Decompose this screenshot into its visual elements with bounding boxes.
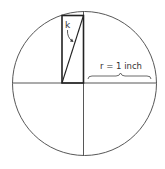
circle-diagram: k r = 1 inch [0,0,165,169]
angle-arrow [67,30,72,41]
radius-label: r = 1 inch [100,61,142,71]
circle [13,12,157,156]
radius-brace [88,73,151,79]
angle-label-k: k [65,20,71,30]
